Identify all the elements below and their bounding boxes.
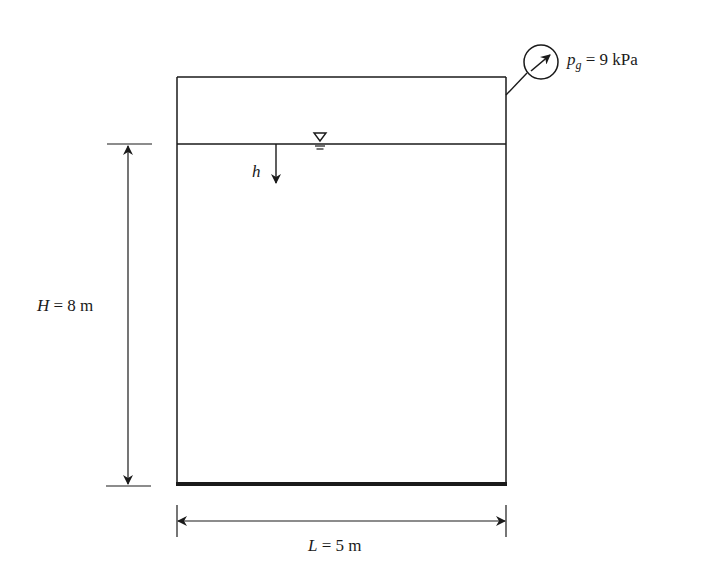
- depth-label: h: [252, 162, 261, 182]
- length-value: = 5 m: [317, 536, 361, 555]
- length-dimension: [177, 505, 506, 537]
- height-value: = 8 m: [49, 296, 93, 315]
- gauge-value: 9 kPa: [600, 50, 638, 69]
- gauge-equals: =: [582, 50, 600, 69]
- height-dimension: [106, 144, 152, 486]
- diagram-canvas: pg = 9 kPa h H = 8 m L = 5 m: [0, 0, 714, 577]
- gauge-symbol: p: [567, 50, 576, 69]
- gauge-pressure-label: pg = 9 kPa: [567, 50, 638, 73]
- diagram-drawing: [0, 0, 714, 577]
- height-symbol: H: [37, 296, 49, 315]
- length-label: L = 5 m: [308, 536, 362, 556]
- gauge-connector: [506, 73, 527, 95]
- pressure-gauge-icon: [524, 45, 558, 79]
- free-surface-triangle-icon: [314, 133, 326, 149]
- tank: [176, 77, 507, 485]
- height-label: H = 8 m: [37, 296, 93, 316]
